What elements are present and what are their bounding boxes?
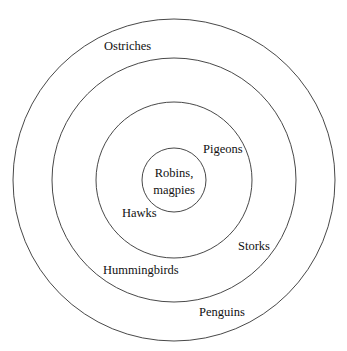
label-magpies: magpies xyxy=(153,183,195,197)
label-ostriches: Ostriches xyxy=(104,39,151,53)
label-hummingbirds: Hummingbirds xyxy=(103,263,179,277)
label-hawks: Hawks xyxy=(122,206,157,220)
inner-ring xyxy=(142,148,206,212)
outer-ring xyxy=(13,19,335,341)
label-penguins: Penguins xyxy=(199,305,245,319)
label-pigeons: Pigeons xyxy=(203,142,243,156)
label-storks: Storks xyxy=(238,239,270,253)
label-robins: Robins, xyxy=(155,166,194,180)
concentric-bird-diagram: Ostriches Pigeons Robins, magpies Hawks … xyxy=(0,0,347,351)
third-ring xyxy=(96,102,252,258)
